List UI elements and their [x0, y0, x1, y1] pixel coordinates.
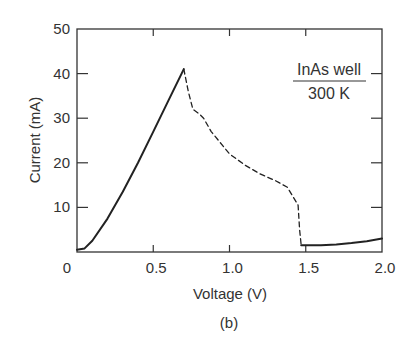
- x-tick-label: 0.5: [146, 259, 167, 276]
- y-tick-label: 50: [53, 20, 70, 37]
- iv-chart: 00.51.01.52.01020304050 Voltage (V) Curr…: [0, 0, 414, 351]
- series-solid: [77, 69, 184, 250]
- series-solid: [301, 239, 382, 246]
- x-tick-label: 1.0: [222, 259, 243, 276]
- y-tick-label: 40: [53, 65, 70, 82]
- x-tick-label: 0: [63, 259, 71, 276]
- annotation-temperature: 300 K: [308, 85, 350, 102]
- x-tick-label: 1.5: [298, 259, 319, 276]
- annotation-material: InAs well: [297, 61, 361, 78]
- x-axis-label: Voltage (V): [193, 285, 267, 302]
- y-tick-label: 20: [53, 154, 70, 171]
- x-tick-label: 2.0: [375, 259, 396, 276]
- figure-caption: (b): [220, 314, 238, 331]
- series-dashed: [184, 69, 301, 245]
- y-axis-label: Current (mA): [26, 97, 43, 184]
- y-tick-label: 30: [53, 109, 70, 126]
- tick-labels: 00.51.01.52.01020304050: [53, 20, 395, 276]
- y-tick-label: 10: [53, 198, 70, 215]
